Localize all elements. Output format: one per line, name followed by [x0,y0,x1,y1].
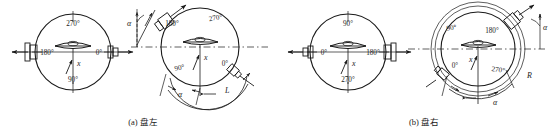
degree-label-left: 180° [40,49,54,57]
degree-label-upper-right: 180° [485,27,499,35]
index-label-x: x [203,53,208,62]
degree-label-right: 180° [366,49,380,57]
index-label-x: x [351,59,356,68]
degree-label-top: 90° [343,20,353,28]
figure-canvas: 270° 180° 0° 90° x α [0,0,553,135]
arc-label-L: L [224,86,230,95]
theodolite-circle-reading-figure: 270° 180° 0° 90° x α [0,0,553,135]
degree-label-left: 0° [321,49,328,57]
degree-label-right: 0° [96,49,103,57]
index-label-x: x [468,55,473,64]
index-label-x: x [76,59,81,68]
degree-label-lower-right: 0° [222,60,229,68]
panel-a-caption: (a) 盘左 [128,117,158,127]
degree-label-upper-left: 180° [165,20,179,28]
panel-b-caption: (b) 盘右 [409,117,439,127]
degree-label-bottom: 270° [341,76,355,84]
degree-label-lower-left: 0° [452,62,459,70]
degree-label-top: 270° [66,20,80,28]
arc-label-R: R [526,71,532,80]
figure-background [0,0,553,135]
degree-label-bottom: 90° [68,76,78,84]
